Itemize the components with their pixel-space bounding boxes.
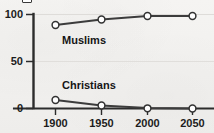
series-christians-line bbox=[56, 100, 193, 109]
series-muslims: Muslims bbox=[52, 13, 196, 46]
x-tick-label-2050: 2050 bbox=[180, 117, 204, 129]
series-muslims-label: Muslims bbox=[62, 34, 106, 46]
y-tick-label-50: 50 bbox=[11, 55, 23, 67]
series-christians-point-1900 bbox=[52, 97, 59, 104]
x-tick-label-1950: 1950 bbox=[89, 117, 113, 129]
series-muslims-point-2050 bbox=[189, 13, 196, 20]
y-tick-label-0: 0 bbox=[17, 102, 23, 114]
series-christians-point-1950 bbox=[98, 102, 105, 109]
series-christians: Christians bbox=[52, 79, 196, 112]
series-muslims-point-1900 bbox=[52, 22, 59, 29]
chart-screenshot: 100 50 0 1900 1950 2000 2050 Muslims bbox=[0, 0, 214, 133]
x-tick-label-2000: 2000 bbox=[135, 117, 159, 129]
series-muslims-point-2000 bbox=[144, 13, 151, 20]
x-axis-ticks bbox=[56, 109, 193, 115]
line-chart-plot: 100 50 0 1900 1950 2000 2050 Muslims bbox=[0, 0, 214, 133]
y-axis-tick-labels: 100 50 0 bbox=[5, 8, 23, 114]
y-tick-label-100: 100 bbox=[5, 8, 23, 20]
series-christians-label: Christians bbox=[62, 79, 116, 91]
gridlines bbox=[33, 15, 214, 62]
x-tick-label-1900: 1900 bbox=[43, 117, 67, 129]
x-axis-tick-labels: 1900 1950 2000 2050 bbox=[43, 117, 204, 129]
series-christians-point-2000 bbox=[144, 105, 151, 112]
series-christians-point-2050 bbox=[189, 105, 196, 112]
series-muslims-line bbox=[56, 16, 193, 25]
y-axis-ticks bbox=[26, 15, 33, 109]
series-muslims-point-1950 bbox=[98, 16, 105, 23]
